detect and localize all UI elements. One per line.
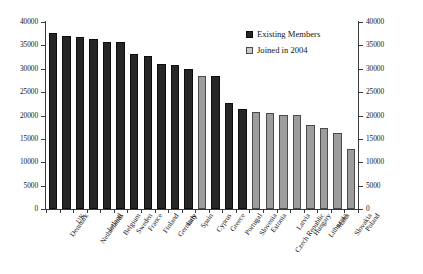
y-axis-right-tick: [359, 139, 363, 140]
y-axis-right-tick-label: 10000: [366, 158, 384, 166]
y-axis-left-tick: [41, 209, 45, 210]
y-axis-left-tick-label: 5000: [24, 182, 38, 190]
bar: [89, 39, 97, 209]
y-axis-left-tick-label: 30000: [20, 65, 38, 73]
y-axis-left-tick: [41, 69, 45, 70]
bar: [184, 69, 192, 209]
bar: [293, 115, 301, 209]
legend-label: Existing Members: [257, 30, 320, 39]
y-axis-right-tick: [359, 92, 363, 93]
y-axis-right-tick: [359, 209, 363, 210]
y-axis-left-tick: [41, 116, 45, 117]
y-axis-left-tick: [41, 45, 45, 46]
y-axis-right-tick-label: 20000: [366, 112, 384, 120]
bar: [266, 113, 274, 209]
y-axis-right-tick: [359, 69, 363, 70]
y-axis-right-tick-label: 15000: [366, 135, 384, 143]
bar: [238, 109, 246, 209]
legend-item-joined-in-2004: Joined in 2004: [246, 44, 320, 57]
legend-label: Joined in 2004: [257, 46, 308, 55]
y-axis-left-tick-label: 15000: [20, 135, 38, 143]
y-axis-right-tick: [359, 186, 363, 187]
bar-chart: 0500010000150002000025000300003500040000…: [0, 0, 423, 274]
y-axis-left-tick: [41, 22, 45, 23]
y-axis-left-tick: [41, 186, 45, 187]
bar: [279, 115, 287, 209]
bar: [171, 65, 179, 209]
bar: [103, 42, 111, 209]
chart-legend: Existing Members Joined in 2004: [246, 28, 320, 60]
bar: [49, 33, 57, 209]
y-axis-left-tick-label: 40000: [20, 18, 38, 26]
bar: [347, 149, 355, 209]
y-axis-right-tick-label: 30000: [366, 65, 384, 73]
y-axis-left-tick: [41, 92, 45, 93]
x-axis-label: Malta: [335, 212, 351, 230]
y-axis-right-tick-label: 25000: [366, 88, 384, 96]
y-axis-right-tick: [359, 162, 363, 163]
bar: [211, 76, 219, 209]
y-axis-left-tick: [41, 162, 45, 163]
y-axis-right-tick: [359, 22, 363, 23]
y-axis-left-tick-label: 20000: [20, 112, 38, 120]
bar: [157, 64, 165, 209]
bar: [252, 112, 260, 209]
bar: [62, 36, 70, 209]
legend-swatch-icon: [246, 31, 253, 38]
x-axis-label: Spain: [199, 212, 215, 230]
y-axis-left-tick: [41, 139, 45, 140]
y-axis-right-tick-label: 40000: [366, 18, 384, 26]
y-axis-right-tick-label: 35000: [366, 41, 384, 49]
bar: [144, 56, 152, 209]
y-axis-right-tick: [359, 45, 363, 46]
bar: [76, 37, 84, 209]
legend-item-existing-members: Existing Members: [246, 28, 320, 41]
bar: [130, 54, 138, 209]
bar: [306, 125, 314, 209]
legend-swatch-icon: [246, 47, 253, 54]
y-axis-right-tick: [359, 116, 363, 117]
y-axis-left-tick-label: 10000: [20, 158, 38, 166]
y-axis-left-tick-label: 25000: [20, 88, 38, 96]
bar: [333, 133, 341, 209]
x-axis-labels: DenmarkUKNetherlandsIrelandBelgiumSweden…: [0, 212, 423, 274]
y-axis-right-tick-label: 5000: [366, 182, 380, 190]
x-axis-line: [45, 209, 359, 210]
bar: [198, 76, 206, 209]
bar: [225, 103, 233, 209]
bar: [116, 42, 124, 209]
bar: [320, 128, 328, 209]
y-axis-left-tick-label: 35000: [20, 41, 38, 49]
